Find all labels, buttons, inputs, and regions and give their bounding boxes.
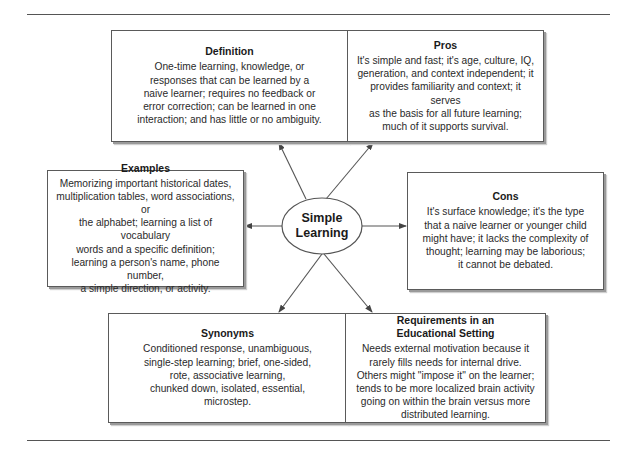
text-line: provides familiarity and context; it ser…: [354, 80, 537, 106]
center-label-line2: Learning: [296, 226, 349, 241]
text-line: Needs external motivation because it: [356, 342, 534, 355]
arrow-to-synonyms: [279, 254, 322, 312]
requirements-text: Needs external motivation because it rar…: [356, 342, 534, 421]
examples-title: Examples: [121, 162, 170, 175]
arrow-to-pros: [326, 143, 373, 199]
cons-box: Cons It's surface knowledge; it's the ty…: [407, 172, 604, 290]
pros-title: Pros: [434, 39, 457, 52]
text-line: a simple direction, or activity.: [54, 282, 237, 295]
text-line: multiplication tables, word associations…: [54, 190, 237, 216]
requirements-box: Requirements in an Educational Setting N…: [345, 313, 546, 423]
text-line: Others might "impose it" on the learner;: [356, 369, 534, 382]
text-line: learning a person's name, phone number,: [54, 256, 237, 282]
text-line: tends to be more localized brain activit…: [356, 382, 534, 395]
text-line: Memorizing important historical dates,: [54, 177, 237, 190]
title-line: Educational Setting: [396, 327, 494, 340]
cons-title: Cons: [492, 190, 518, 203]
center-label-line1: Simple: [302, 211, 343, 226]
text-line: the alphabet; learning a list of vocabul…: [54, 216, 237, 242]
text-line: single-step learning; brief, one-sided,: [143, 356, 312, 369]
text-line: chunked down, isolated, essential,: [143, 382, 312, 395]
synonyms-box: Synonyms Conditioned response, unambiguo…: [108, 313, 347, 423]
synonyms-title: Synonyms: [201, 327, 254, 340]
text-line: One-time learning, knowledge, or: [137, 60, 321, 73]
text-line: it cannot be debated.: [423, 258, 589, 271]
text-line: words and a specific definition;: [54, 243, 237, 256]
text-line: microstep.: [143, 395, 312, 408]
text-line: as the basis for all future learning;: [354, 107, 537, 120]
text-line: interaction; and has little or no ambigu…: [137, 113, 321, 126]
text-line: might have; it lacks the complexity of: [423, 232, 589, 245]
text-line: It's surface knowledge; it's the type: [423, 205, 589, 218]
pros-text: It's simple and fast; it's age, culture,…: [354, 54, 537, 133]
text-line: responses that can be learned by a: [137, 74, 321, 87]
examples-box: Examples Memorizing important historical…: [47, 170, 244, 287]
text-line: It's simple and fast; it's age, culture,…: [354, 54, 537, 67]
text-line: rote, associative learning,: [143, 369, 312, 382]
definition-title: Definition: [205, 45, 253, 58]
text-line: error correction; can be learned in one: [137, 100, 321, 113]
text-line: distributed learning.: [356, 408, 534, 421]
text-line: that a naive learner or younger child: [423, 219, 589, 232]
text-line: going on within the brain versus more: [356, 395, 534, 408]
text-line: rarely fills needs for internal drive.: [356, 356, 534, 369]
text-line: thought; learning may be laborious;: [423, 245, 589, 258]
arrow-to-definition: [279, 143, 306, 199]
text-line: naive learner; requires no feedback or: [137, 87, 321, 100]
cons-text: It's surface knowledge; it's the type th…: [423, 205, 589, 271]
text-line: generation, and context independent; it: [354, 67, 537, 80]
examples-text: Memorizing important historical dates, m…: [54, 177, 237, 296]
center-node: Simple Learning: [282, 197, 362, 255]
requirements-title: Requirements in an Educational Setting: [396, 314, 494, 340]
definition-box: Definition One-time learning, knowledge,…: [111, 30, 348, 142]
text-line: Conditioned response, unambiguous,: [143, 342, 312, 355]
pros-box: Pros It's simple and fast; it's age, cul…: [347, 30, 544, 142]
title-line: Requirements in an: [396, 314, 494, 327]
definition-text: One-time learning, knowledge, or respons…: [137, 60, 321, 126]
text-line: much of it supports survival.: [354, 120, 537, 133]
synonyms-text: Conditioned response, unambiguous, singl…: [143, 342, 312, 408]
arrow-to-requirements: [324, 254, 372, 312]
